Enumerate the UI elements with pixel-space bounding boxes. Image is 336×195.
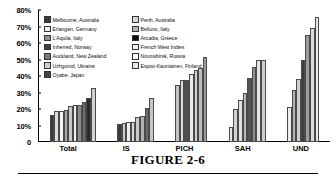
y-axis-tick-label: 80% xyxy=(17,6,31,15)
y-axis-tick-label: 30% xyxy=(17,88,31,97)
legend-item: Espoo-Kauniainen, Finland xyxy=(132,61,220,70)
legend-item: Perth, Australia xyxy=(132,15,220,24)
legend-item-label: L'Aquila, Italy xyxy=(53,35,83,41)
legend-swatch-icon xyxy=(44,16,51,23)
legend-column-left: Melbourne, AustraliaErlangen, GermanyL'A… xyxy=(44,15,132,79)
legend-item-label: Uzhgorod, Ukraine xyxy=(53,63,95,69)
y-axis-tick-mark xyxy=(38,125,41,126)
bar-group xyxy=(287,10,319,142)
legend-item: Uzhgorod, Ukraine xyxy=(44,61,132,70)
legend-swatch-icon xyxy=(44,71,51,78)
y-axis-tick-label: 70% xyxy=(17,22,31,31)
y-axis-tick-mark xyxy=(38,10,41,11)
legend-item: Belluno, Italy xyxy=(132,24,220,33)
legend-item-label: French West Indies xyxy=(141,44,185,50)
legend-swatch-icon xyxy=(132,53,139,60)
legend-swatch-icon xyxy=(132,16,139,23)
figure-caption-title: FIGURE 2-6 xyxy=(0,152,336,168)
legend-item-label: Auckland, New Zealand xyxy=(53,53,107,59)
legend-item-label: Espoo-Kauniainen, Finland xyxy=(141,63,202,69)
bar xyxy=(261,60,266,143)
legend-item: Novosibirsk, Russia xyxy=(132,52,220,61)
legend-item-label: Belluno, Italy xyxy=(141,26,170,32)
legend-swatch-icon xyxy=(44,62,51,69)
figure-container: 010%20%30%40%50%60%70%80% TotalISPICHSAH… xyxy=(0,0,336,195)
legend-column-right: Perth, AustraliaBelluno, ItalyArcadia, G… xyxy=(132,15,220,79)
y-axis-tick-label: 60% xyxy=(17,39,31,48)
legend-item-label: Inherred, Norway xyxy=(53,44,92,50)
bar xyxy=(315,17,320,142)
legend-item-label: Melbourne, Australia xyxy=(53,17,99,23)
chart-legend: Melbourne, AustraliaErlangen, GermanyL'A… xyxy=(44,15,220,79)
bar xyxy=(91,88,96,142)
y-axis-tick-mark xyxy=(38,109,41,110)
y-axis-tick-label: 20% xyxy=(17,105,31,114)
y-axis-tick-mark xyxy=(38,76,41,77)
legend-item: Arcadia, Greece xyxy=(132,33,220,42)
bar xyxy=(149,98,154,142)
legend-item-label: Oyabe, Japan xyxy=(53,72,85,78)
legend-item-label: Novosibirsk, Russia xyxy=(141,53,186,59)
legend-item: Oyabe, Japan xyxy=(44,70,132,79)
legend-swatch-icon xyxy=(132,44,139,51)
legend-item-label: Perth, Australia xyxy=(141,17,175,23)
y-axis-tick-label: 50% xyxy=(17,55,31,64)
y-axis-tick-label: 10% xyxy=(17,121,31,130)
legend-item: L'Aquila, Italy xyxy=(44,33,132,42)
legend-swatch-icon xyxy=(44,44,51,51)
legend-item: Inherred, Norway xyxy=(44,43,132,52)
y-axis-tick-mark xyxy=(38,92,41,93)
legend-swatch-icon xyxy=(132,35,139,42)
legend-item: Erlangen, Germany xyxy=(44,24,132,33)
legend-swatch-icon xyxy=(44,53,51,60)
legend-swatch-icon xyxy=(132,62,139,69)
legend-item-label: Arcadia, Greece xyxy=(141,35,178,41)
caption-divider xyxy=(18,173,318,174)
y-axis-tick-label: 0 xyxy=(27,138,31,147)
y-axis-tick-label: 40% xyxy=(17,72,31,81)
y-axis-tick-mark xyxy=(38,26,41,27)
y-axis-tick-mark xyxy=(38,59,41,60)
bar-chart: 010%20%30%40%50%60%70%80% TotalISPICHSAH… xyxy=(0,4,336,150)
legend-item: Melbourne, Australia xyxy=(44,15,132,24)
legend-swatch-icon xyxy=(132,26,139,33)
y-axis: 010%20%30%40%50%60%70%80% xyxy=(0,10,36,142)
figure-caption-block: FIGURE 2-6 xyxy=(0,152,336,174)
bar-group xyxy=(229,10,266,142)
legend-swatch-icon xyxy=(44,26,51,33)
y-axis-tick-mark xyxy=(38,43,41,44)
legend-item-label: Erlangen, Germany xyxy=(53,26,97,32)
legend-item: French West Indies xyxy=(132,43,220,52)
legend-item: Auckland, New Zealand xyxy=(44,52,132,61)
legend-swatch-icon xyxy=(44,35,51,42)
